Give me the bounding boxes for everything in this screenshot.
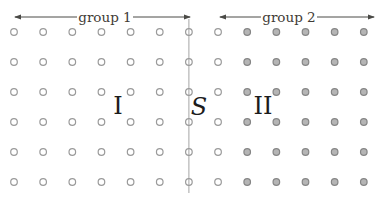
lattice-dot-open [127, 149, 134, 156]
lattice-dot-open [11, 89, 18, 96]
lattice-dot-open [11, 149, 18, 156]
lattice-dot-filled [244, 89, 251, 96]
lattice-dot-open [98, 149, 105, 156]
arrowhead-right-icon [184, 14, 191, 19]
lattice-dot-open [40, 59, 47, 66]
lattice-dot-open [215, 119, 222, 126]
lattice-dot-filled [361, 29, 368, 36]
lattice-dot-filled [273, 179, 280, 186]
lattice-dot-open [11, 59, 18, 66]
lattice-dot-filled [273, 59, 280, 66]
arrowhead-right-icon [368, 14, 375, 19]
lattice-dot-open [215, 149, 222, 156]
lattice-diagram: group 1group 2ISII [0, 0, 382, 198]
lattice-dot-open [69, 59, 76, 66]
lattice-dot-filled [273, 149, 280, 156]
group-span-arrow-2-label: group 2 [262, 9, 315, 25]
lattice-dot-open [156, 89, 163, 96]
lattice-dot-filled [361, 119, 368, 126]
region-label-ii: II [254, 92, 273, 120]
lattice-dot-open [69, 29, 76, 36]
lattice-dot-filled [244, 119, 251, 126]
lattice-dot-filled [273, 89, 280, 96]
lattice-dot-filled [331, 29, 338, 36]
lattice-dot-open [127, 179, 134, 186]
lattice-dot-open [40, 179, 47, 186]
lattice-dot-open [11, 179, 18, 186]
lattice-dot-filled [244, 29, 251, 36]
lattice-dot-filled [273, 29, 280, 36]
lattice-dot-open [127, 119, 134, 126]
lattice-dot-filled [273, 119, 280, 126]
lattice-dot-open [215, 89, 222, 96]
lattice-dot-open [69, 89, 76, 96]
lattice-dot-open [127, 59, 134, 66]
lattice-dot-open [156, 119, 163, 126]
lattice-dot-open [156, 59, 163, 66]
lattice-dot-open [98, 29, 105, 36]
region-label-i: I [113, 92, 122, 120]
lattice-dot-filled [302, 29, 309, 36]
lattice-dot-filled [244, 179, 251, 186]
arrowhead-left-icon [14, 14, 21, 19]
lattice-dot-filled [361, 149, 368, 156]
lattice-dot-filled [361, 179, 368, 186]
lattice-dot-filled [302, 149, 309, 156]
lattice-dot-filled [331, 89, 338, 96]
lattice-dot-open [69, 179, 76, 186]
lattice-dot-open [69, 119, 76, 126]
lattice-dot-filled [244, 149, 251, 156]
lattice-dot-open [156, 149, 163, 156]
lattice-dot-filled [302, 119, 309, 126]
lattice-dot-open [98, 59, 105, 66]
lattice-dot-open [127, 29, 134, 36]
lattice-dot-open [40, 149, 47, 156]
lattice-dot-open [215, 179, 222, 186]
lattice-dot-filled [244, 59, 251, 66]
lattice-dot-open [40, 119, 47, 126]
group-span-arrow-1-label: group 1 [78, 9, 131, 25]
lattice-dot-open [215, 29, 222, 36]
lattice-dot-filled [331, 119, 338, 126]
lattice-dot-open [11, 119, 18, 126]
lattice-dot-filled [361, 59, 368, 66]
lattice-dot-filled [331, 179, 338, 186]
lattice-dot-open [40, 29, 47, 36]
lattice-dot-filled [302, 59, 309, 66]
lattice-dot-filled [302, 179, 309, 186]
lattice-figure: group 1group 2ISII [0, 0, 382, 198]
lattice-dot-open [40, 89, 47, 96]
lattice-dot-open [127, 89, 134, 96]
lattice-dot-open [69, 149, 76, 156]
arrowhead-left-icon [219, 14, 226, 19]
lattice-dot-filled [331, 59, 338, 66]
lattice-dot-open [11, 29, 18, 36]
lattice-dot-filled [302, 89, 309, 96]
lattice-dot-open [215, 59, 222, 66]
lattice-dot-open [156, 179, 163, 186]
lattice-dot-open [98, 89, 105, 96]
region-label-s: S [191, 93, 207, 121]
lattice-dot-filled [331, 149, 338, 156]
lattice-dot-filled [361, 89, 368, 96]
lattice-dot-open [98, 119, 105, 126]
lattice-dot-open [98, 179, 105, 186]
lattice-dot-open [156, 29, 163, 36]
